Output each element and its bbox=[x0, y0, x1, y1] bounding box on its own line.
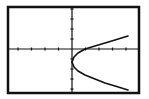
screen-border bbox=[8, 7, 139, 93]
graph-screen bbox=[0, 0, 149, 99]
